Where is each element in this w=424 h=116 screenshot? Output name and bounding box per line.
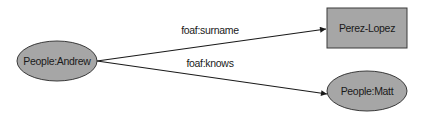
node-label-andrew: People:Andrew bbox=[23, 55, 91, 67]
node-perez-lopez[interactable]: Perez-Lopez bbox=[327, 8, 407, 48]
rdf-graph-diagram: foaf:surname foaf:knows People:Andrew Pe… bbox=[0, 0, 424, 116]
node-label-matt: People:Matt bbox=[341, 85, 394, 97]
node-label-perez-lopez: Perez-Lopez bbox=[339, 22, 395, 34]
node-people-andrew[interactable]: People:Andrew bbox=[17, 41, 97, 81]
node-people-matt[interactable]: People:Matt bbox=[327, 71, 407, 111]
edge-foaf-surname: foaf:surname bbox=[97, 24, 326, 61]
edge-foaf-knows: foaf:knows bbox=[97, 57, 327, 94]
edge-label-surname: foaf:surname bbox=[181, 24, 239, 36]
edge-label-knows: foaf:knows bbox=[186, 57, 233, 69]
